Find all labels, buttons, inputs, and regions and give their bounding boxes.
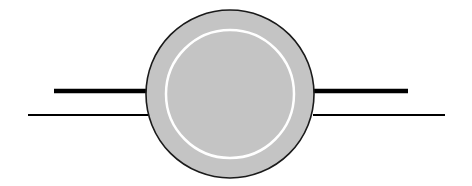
- diagram-canvas: [0, 0, 472, 186]
- gray-circle: [146, 10, 314, 178]
